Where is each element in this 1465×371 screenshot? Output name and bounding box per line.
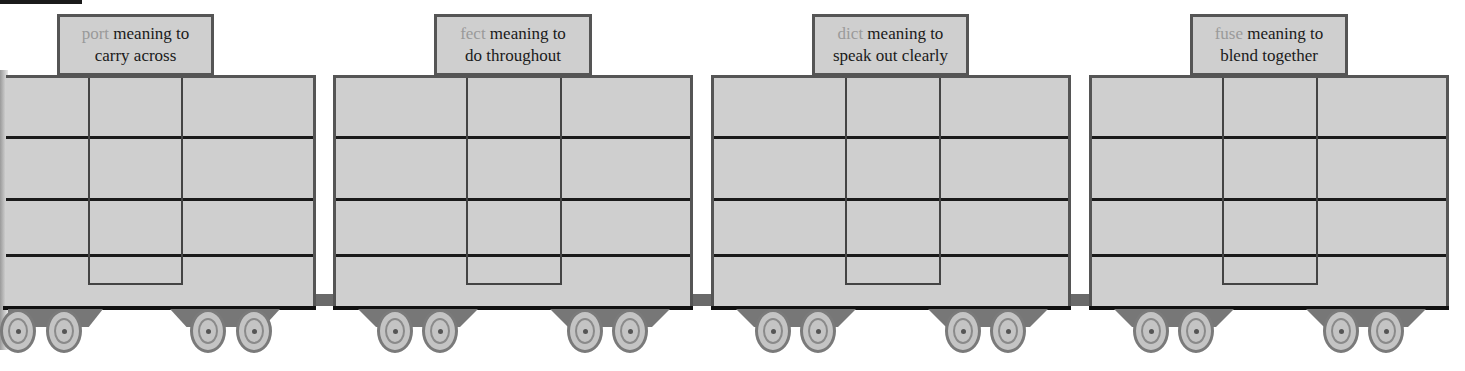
wheel-icon <box>800 309 836 353</box>
meaning-text: do throughout <box>465 46 561 65</box>
meaning-text: carry across <box>95 46 177 65</box>
meaning-text: meaning to <box>486 24 566 43</box>
root-word: dict <box>838 24 864 43</box>
car-body <box>333 75 693 310</box>
root-label-box: port meaning to carry across <box>57 14 214 76</box>
wheel-icon <box>422 309 458 353</box>
door-panel <box>466 78 562 285</box>
wheel-icon <box>1368 309 1404 353</box>
meaning-text: speak out clearly <box>833 46 948 65</box>
car-body <box>1089 75 1449 310</box>
door-panel <box>88 78 183 285</box>
root-label-box: fect meaning to do throughout <box>434 14 592 76</box>
wheel-icon <box>612 309 648 353</box>
door-panel <box>1222 78 1318 285</box>
bogie <box>358 309 478 327</box>
wheel-icon <box>1323 309 1359 353</box>
root-label-box: dict meaning to speak out clearly <box>812 14 969 76</box>
wheel-icon <box>945 309 981 353</box>
wheel-icon <box>567 309 603 353</box>
root-label-box: fuse meaning to blend together <box>1190 14 1348 76</box>
meaning-text: meaning to <box>1243 24 1323 43</box>
meaning-text: meaning to <box>863 24 943 43</box>
wheel-icon <box>1133 309 1169 353</box>
wheel-icon <box>236 309 272 353</box>
wheel-icon <box>755 309 791 353</box>
wheel-icon <box>990 309 1026 353</box>
wheel-icon <box>0 309 36 353</box>
wheel-icon <box>46 309 82 353</box>
bogie <box>736 309 856 327</box>
wheel-icon <box>1178 309 1214 353</box>
door-panel <box>845 78 941 285</box>
wheel-icon <box>377 309 413 353</box>
meaning-text: meaning to <box>109 24 189 43</box>
meaning-text: blend together <box>1220 46 1318 65</box>
wheel-icon <box>190 309 226 353</box>
bogie <box>1114 309 1234 327</box>
root-word: port <box>82 24 109 43</box>
car-body <box>711 75 1071 310</box>
root-word: fect <box>460 24 485 43</box>
car-body <box>6 75 316 310</box>
top-edge-bar <box>0 0 82 4</box>
root-word: fuse <box>1215 24 1243 43</box>
